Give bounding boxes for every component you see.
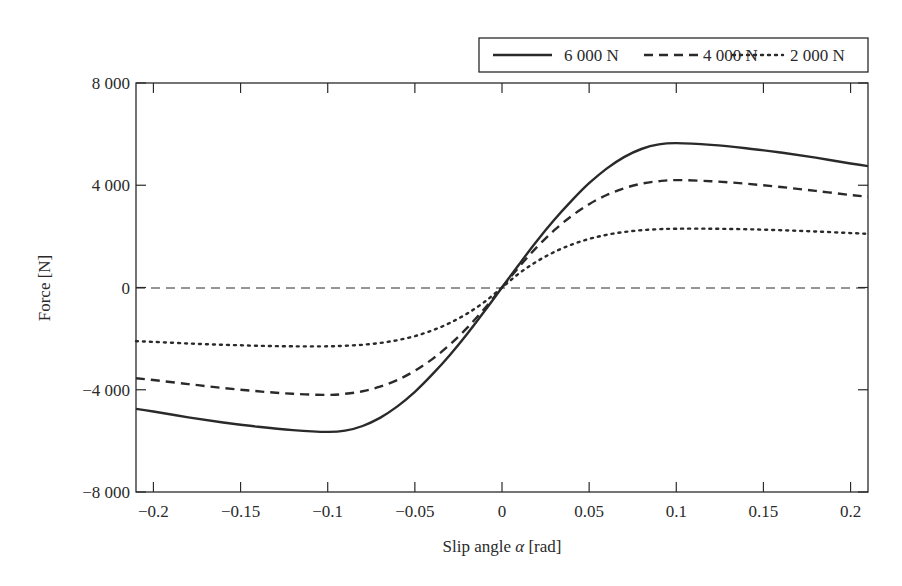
x-axis-title: Slip angle α [rad] [443,537,562,556]
y-tick-label: −4 000 [82,381,130,400]
x-tick-label: −0.2 [138,502,169,521]
x-tick-labels: −0.2−0.15−0.1−0.0500.050.10.150.2 [138,502,861,521]
tire-force-chart: 6 000 N 4 000 N 2 000 N −0.2−0.15−0.1−0.… [0,0,902,586]
y-tick-label: 0 [122,279,131,298]
y-tick-labels: −8 000−4 00004 0008 000 [82,74,130,502]
x-tick-label: −0.15 [221,502,260,521]
x-tick-label: 0.2 [840,502,861,521]
legend: 6 000 N 4 000 N 2 000 N [479,38,868,72]
legend-label-2000: 2 000 N [790,46,845,65]
x-tick-label: 0 [498,502,507,521]
y-tick-label: −8 000 [82,483,130,502]
y-tick-label: 4 000 [92,176,130,195]
x-tick-label: 0.1 [666,502,687,521]
x-tick-label: 0.05 [574,502,604,521]
x-tick-label: −0.05 [395,502,434,521]
x-tick-label: 0.15 [749,502,779,521]
legend-label-6000: 6 000 N [564,46,619,65]
y-axis-title: Force [N] [35,255,54,322]
y-tick-label: 8 000 [92,74,130,93]
x-tick-label: −0.1 [312,502,343,521]
